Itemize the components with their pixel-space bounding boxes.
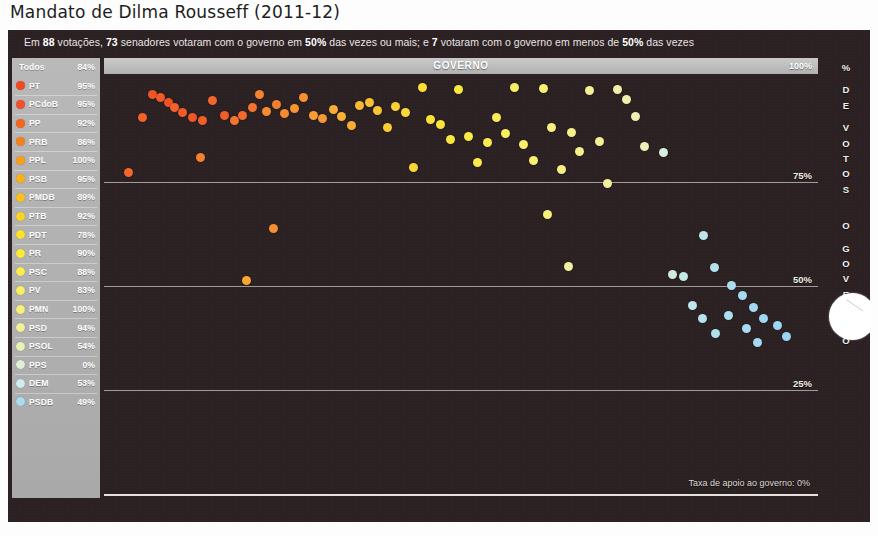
scatter-point[interactable]	[547, 123, 556, 132]
party-color-icon	[16, 379, 25, 388]
scatter-point[interactable]	[355, 101, 364, 110]
scatter-point[interactable]	[567, 128, 576, 137]
scatter-point[interactable]	[124, 168, 133, 177]
scatter-point[interactable]	[640, 142, 649, 151]
scatter-point[interactable]	[269, 224, 278, 233]
scatter-point[interactable]	[749, 303, 758, 312]
scatter-point[interactable]	[759, 314, 768, 323]
scatter-point[interactable]	[539, 84, 548, 93]
scatter-point[interactable]	[208, 96, 217, 105]
scatter-point[interactable]	[710, 263, 719, 272]
scatter-point[interactable]	[753, 338, 762, 347]
scatter-point[interactable]	[188, 113, 197, 122]
legend-value: 95%	[77, 81, 95, 91]
scatter-point[interactable]	[492, 113, 501, 122]
scatter-point[interactable]	[603, 179, 612, 188]
scatter-point[interactable]	[337, 112, 346, 121]
scatter-point[interactable]	[668, 270, 677, 279]
scatter-point[interactable]	[501, 129, 510, 138]
scatter-point[interactable]	[373, 106, 382, 115]
scatter-point[interactable]	[383, 123, 392, 132]
scatter-point[interactable]	[473, 158, 482, 167]
scatter-point[interactable]	[773, 321, 782, 330]
scatter-point[interactable]	[688, 301, 697, 310]
scatter-point[interactable]	[519, 140, 528, 149]
scatter-point[interactable]	[464, 132, 473, 141]
scatter-point[interactable]	[698, 314, 707, 323]
scatter-point[interactable]	[318, 114, 327, 123]
scatter-point[interactable]	[329, 105, 338, 114]
scatter-point[interactable]	[365, 98, 374, 107]
legend-row-pmdb[interactable]: PMDB89%	[12, 188, 100, 207]
scatter-point[interactable]	[595, 137, 604, 146]
scatter-point[interactable]	[262, 107, 271, 116]
scatter-point[interactable]	[178, 108, 187, 117]
scatter-point[interactable]	[280, 109, 289, 118]
scatter-point[interactable]	[564, 262, 573, 271]
legend-row-pt[interactable]: PT95%	[12, 77, 100, 96]
scatter-point[interactable]	[242, 276, 251, 285]
scatter-point[interactable]	[220, 111, 229, 120]
legend-row-pv[interactable]: PV83%	[12, 281, 100, 300]
scatter-point[interactable]	[426, 115, 435, 124]
scatter-point[interactable]	[631, 112, 640, 121]
scatter-point[interactable]	[679, 272, 688, 281]
scatter-point[interactable]	[198, 116, 207, 125]
legend-row-psol[interactable]: PSOL54%	[12, 337, 100, 356]
legend-row-all[interactable]: Todos 84%	[12, 58, 100, 77]
scatter-point[interactable]	[557, 165, 566, 174]
scatter-point[interactable]	[138, 113, 147, 122]
scatter-point[interactable]	[724, 311, 733, 320]
scatter-point[interactable]	[418, 83, 427, 92]
scatter-point[interactable]	[727, 281, 736, 290]
legend-row-ptb[interactable]: PTB92%	[12, 207, 100, 226]
scatter-point[interactable]	[529, 156, 538, 165]
scatter-point[interactable]	[309, 111, 318, 120]
scatter-point[interactable]	[401, 108, 410, 117]
scatter-point[interactable]	[738, 291, 747, 300]
scatter-point[interactable]	[483, 138, 492, 147]
scatter-point[interactable]	[585, 86, 594, 95]
scatter-point[interactable]	[711, 329, 720, 338]
scatter-point[interactable]	[613, 85, 622, 94]
scatter-point[interactable]	[272, 100, 281, 109]
legend-row-prb[interactable]: PRB86%	[12, 132, 100, 151]
scatter-point[interactable]	[248, 103, 257, 112]
party-color-icon	[16, 81, 25, 90]
scatter-point[interactable]	[543, 210, 552, 219]
scatter-point[interactable]	[391, 102, 400, 111]
legend-row-psb[interactable]: PSB95%	[12, 170, 100, 189]
scatter-point[interactable]	[196, 153, 205, 162]
legend-row-pdt[interactable]: PDT78%	[12, 225, 100, 244]
scatter-point[interactable]	[699, 231, 708, 240]
legend-row-pr[interactable]: PR90%	[12, 244, 100, 263]
legend-row-psc[interactable]: PSC88%	[12, 263, 100, 282]
legend-row-psdb[interactable]: PSDB49%	[12, 393, 100, 412]
scatter-point[interactable]	[347, 121, 356, 130]
scatter-point[interactable]	[255, 90, 264, 99]
party-color-icon	[16, 249, 25, 258]
legend-row-pps[interactable]: PPS0%	[12, 356, 100, 375]
legend-label: PDT	[29, 230, 77, 240]
scatter-point[interactable]	[454, 85, 463, 94]
legend-row-pmn[interactable]: PMN100%	[12, 300, 100, 319]
scatter-point[interactable]	[238, 111, 247, 120]
scatter-point[interactable]	[299, 93, 308, 102]
legend-row-dem[interactable]: DEM53%	[12, 374, 100, 393]
legend-row-pcdob[interactable]: PCdoB95%	[12, 95, 100, 114]
legend-row-ppl[interactable]: PPL100%	[12, 151, 100, 170]
legend-row-psd[interactable]: PSD94%	[12, 318, 100, 337]
scatter-point[interactable]	[742, 324, 751, 333]
plot-area: GOVERNO 100% 75%50%25%Taxa de apoio ao g…	[104, 58, 818, 520]
scatter-point[interactable]	[622, 95, 631, 104]
scatter-point[interactable]	[782, 332, 791, 341]
scatter-point[interactable]	[446, 135, 455, 144]
legend-label: PSDB	[29, 397, 77, 407]
scatter-point[interactable]	[436, 120, 445, 129]
scatter-point[interactable]	[659, 148, 668, 157]
scatter-point[interactable]	[575, 147, 584, 156]
legend-row-pp[interactable]: PP92%	[12, 114, 100, 133]
scatter-point[interactable]	[510, 83, 519, 92]
scatter-point[interactable]	[409, 163, 418, 172]
scatter-point[interactable]	[290, 104, 299, 113]
